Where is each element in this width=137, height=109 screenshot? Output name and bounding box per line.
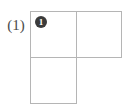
figure-panel: (1) 1 [0, 0, 137, 109]
numbered-marker-icon: 1 [35, 16, 47, 28]
grid-cell-r1c0[interactable] [30, 57, 77, 104]
grid-cell-r0c1[interactable] [76, 11, 122, 58]
grid-cell-r1c1-empty [76, 57, 122, 104]
grid-cell-r0c0[interactable]: 1 [30, 11, 77, 58]
figure-label: (1) [3, 15, 29, 35]
polyomino-grid: 1 [30, 11, 122, 104]
